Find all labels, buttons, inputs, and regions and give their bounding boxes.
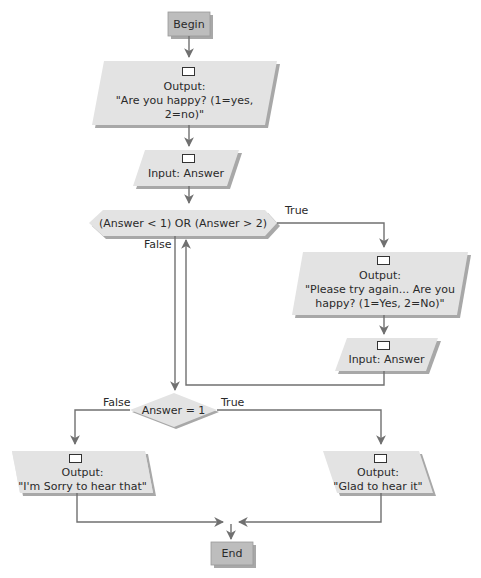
output-box-icon	[69, 454, 82, 463]
output-box-icon	[377, 256, 390, 265]
output-glad-line1: Output:	[323, 466, 433, 479]
output-box-icon	[182, 67, 195, 76]
begin-label: Begin	[168, 18, 210, 31]
edge-range-false-label: False	[144, 238, 172, 251]
output-ask-line2: "Are you happy? (1=yes,	[92, 94, 277, 107]
output-ask-line1: Output:	[92, 80, 277, 93]
arrow-range-true	[277, 223, 384, 247]
decision-eq-label: Answer = 1	[130, 404, 217, 417]
end-label: End	[211, 547, 253, 560]
output-box-icon	[374, 454, 387, 463]
output-sorry-line2: "I'm Sorry to hear that"	[12, 480, 153, 493]
input-box-icon	[182, 154, 195, 163]
arrow-eq-true	[217, 410, 381, 444]
input-answer-1-label: Input: Answer	[133, 167, 239, 180]
edge-eq-false-label: False	[103, 396, 131, 409]
arrow-glad-to-merge	[239, 493, 381, 522]
edge-eq-true-label: True	[221, 396, 244, 409]
arrow-sorry-to-merge	[77, 493, 223, 522]
output-retry-line2: "Please try again... Are you	[292, 283, 468, 296]
input-answer-2-label: Input: Answer	[335, 353, 438, 366]
arrow-eq-false	[75, 410, 130, 444]
output-retry-line1: Output:	[292, 269, 468, 282]
decision-range-label: (Answer < 1) OR (Answer > 2)	[89, 217, 277, 230]
output-ask-line3: 2=no)"	[92, 108, 277, 121]
edge-range-true-label: True	[285, 204, 308, 217]
output-glad-line2: "Glad to hear it"	[323, 480, 433, 493]
input-box-icon	[377, 341, 390, 350]
output-sorry-line1: Output:	[12, 466, 153, 479]
output-retry-line3: happy? (1=Yes, 2=No)"	[292, 297, 468, 310]
